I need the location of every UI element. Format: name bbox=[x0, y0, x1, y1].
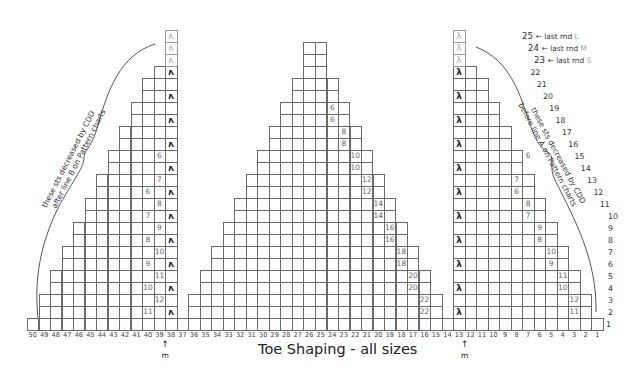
right-bracket-curve bbox=[476, 47, 596, 312]
last-round-number: 25 bbox=[522, 31, 536, 41]
marker-label: m bbox=[160, 351, 170, 360]
chart-title: Toe Shaping - all sizes bbox=[258, 341, 417, 357]
last-round-number: 23 bbox=[534, 55, 548, 65]
marker-label: m bbox=[460, 351, 470, 360]
last-round-text: ← last rnd bbox=[542, 44, 581, 53]
up-arrow-icon: ↑ bbox=[160, 339, 170, 349]
last-round-size: S bbox=[587, 56, 592, 65]
last-round-number: 24 bbox=[528, 43, 542, 53]
up-arrow-icon: ↑ bbox=[460, 339, 470, 349]
last-round-size: L bbox=[575, 32, 579, 41]
last-round-label: 24 ← last rnd M bbox=[528, 43, 587, 53]
last-round-size: M bbox=[581, 44, 587, 53]
last-round-label: 23 ← last rnd S bbox=[534, 55, 591, 65]
last-round-text: ← last rnd bbox=[536, 32, 575, 41]
toe-shaping-chart: ʌʌʌʌʌʌʌʌʌʌʌʌʌʌ11121011910897867622222020… bbox=[0, 0, 637, 384]
last-round-label: 25 ← last rnd L bbox=[522, 31, 579, 41]
last-round-text: ← last rnd bbox=[548, 56, 587, 65]
